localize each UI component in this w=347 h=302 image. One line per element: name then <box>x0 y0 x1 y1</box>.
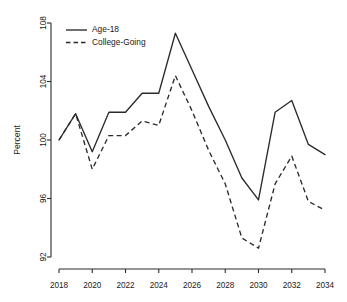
x-axis: 201820202022202420262028203020322034 <box>50 269 335 290</box>
series-line-age-18 <box>59 33 325 200</box>
legend-label-college-going: College-Going <box>92 37 146 47</box>
x-tick-label: 2020 <box>83 281 102 290</box>
x-tick-label: 2032 <box>283 281 302 290</box>
x-tick-label: 2026 <box>183 281 202 290</box>
y-tick-label: 100 <box>39 133 48 147</box>
series-layer <box>59 33 325 248</box>
y-tick-label: 92 <box>39 252 48 262</box>
x-tick-label: 2034 <box>316 281 335 290</box>
line-chart: 9296100104108 20182020202220242026202820… <box>0 0 347 302</box>
chart-container: 9296100104108 20182020202220242026202820… <box>0 0 347 302</box>
y-axis: 9296100104108 <box>39 16 51 262</box>
series-line-college-going <box>59 76 325 249</box>
legend-label-age-18: Age-18 <box>92 24 119 34</box>
y-tick-label: 104 <box>39 74 48 88</box>
y-tick-label: 108 <box>39 16 48 30</box>
y-axis-title: Percent <box>12 125 22 155</box>
x-tick-label: 2028 <box>216 281 235 290</box>
chart-legend: Age-18College-Going <box>66 24 146 47</box>
x-tick-label: 2022 <box>116 281 135 290</box>
x-tick-label: 2030 <box>249 281 268 290</box>
x-tick-label: 2018 <box>50 281 69 290</box>
y-tick-label: 96 <box>39 194 48 204</box>
x-tick-label: 2024 <box>150 281 169 290</box>
